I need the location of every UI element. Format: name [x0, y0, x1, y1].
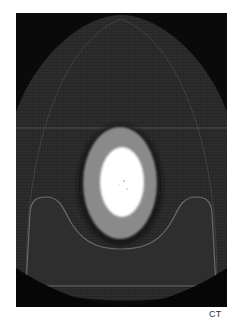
- core-speck: [123, 180, 125, 182]
- core-speck: [126, 188, 128, 190]
- modality-caption: CT: [209, 309, 221, 319]
- core-speck: [118, 184, 120, 186]
- object-bright-core: [100, 147, 144, 217]
- ct-scan-image: [16, 13, 227, 307]
